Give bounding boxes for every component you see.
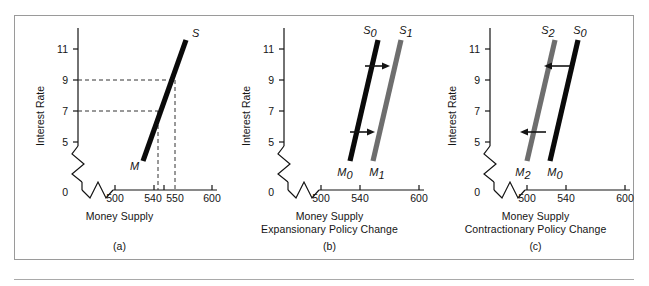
y-tick-label-11: 11 [469, 43, 480, 55]
y-tick-label-11: 11 [263, 43, 274, 55]
figure-root: 5 7 9 11 0 500 540 550 600 S M [0, 0, 649, 286]
origin-label: 0 [268, 186, 274, 198]
supply-curve-S1 [373, 40, 401, 161]
supply-curve-S0 [550, 40, 578, 161]
curve-label-S0: S0 [363, 24, 377, 39]
y-axis-title: Interest Rate [240, 86, 252, 146]
supply-curve-S0 [350, 40, 378, 161]
x-tick-label-540: 540 [144, 192, 162, 204]
y-tick-label-5: 5 [62, 136, 68, 148]
panel-c-plot: 5 7 9 11 0 500 540 600 S2 M2 S0 M0 [428, 18, 643, 208]
y-axis-break-zigzag [72, 146, 84, 182]
y-axis-title: Interest Rate [446, 86, 458, 146]
origin-label: 0 [62, 186, 68, 198]
panel-letter-b: (b) [222, 240, 437, 252]
x-axis-title: Money Supply [222, 210, 437, 222]
curve-label-M2: M2 [515, 166, 530, 181]
x-tick-label-500: 500 [106, 192, 124, 204]
x-axis-title: Money Supply [12, 210, 227, 222]
panel-letter-c: (c) [428, 240, 643, 252]
curve-label-S: S [192, 27, 200, 39]
y-tick-label-5: 5 [474, 136, 480, 148]
y-tick-label-9: 9 [62, 74, 68, 86]
curve-label-S0: S0 [573, 24, 587, 39]
y-tick-label-9: 9 [474, 74, 480, 86]
x-axis-title: Money Supply [428, 210, 643, 222]
x-axis-subtitle: Expansionary Policy Change [222, 223, 437, 235]
panel-a: 5 7 9 11 0 500 540 550 600 S M [12, 18, 227, 258]
curve-label-S1: S1 [399, 24, 412, 39]
y-axis-title: Interest Rate [34, 86, 46, 146]
x-axis-subtitle: Contractionary Policy Change [428, 223, 643, 235]
x-tick-label-600: 600 [203, 192, 221, 204]
panel-c: 5 7 9 11 0 500 540 600 S2 M2 S0 M0 [428, 18, 643, 258]
x-tick-label-600: 600 [410, 192, 428, 204]
y-tick-label-9: 9 [268, 74, 274, 86]
panel-b: 5 7 9 11 0 500 540 600 S0 M0 S1 M1 [222, 18, 437, 258]
panel-b-plot: 5 7 9 11 0 500 540 600 S0 M0 S1 M1 [222, 18, 437, 208]
curve-label-M1: M1 [369, 166, 384, 181]
y-tick-label-7: 7 [474, 105, 480, 117]
x-tick-label-500: 500 [518, 192, 536, 204]
x-tick-label-540: 540 [557, 192, 575, 204]
bottom-divider [14, 279, 634, 280]
x-tick-label-550: 550 [166, 192, 184, 204]
origin-label: 0 [474, 186, 480, 198]
panel-letter-a: (a) [12, 240, 227, 252]
supply-curve-S2 [527, 40, 555, 161]
y-axis-break-zigzag [484, 146, 496, 182]
y-tick-label-11: 11 [57, 43, 68, 55]
x-tick-label-540: 540 [351, 192, 369, 204]
y-tick-label-7: 7 [268, 105, 274, 117]
curve-label-M0: M0 [337, 166, 353, 181]
curve-label-M0: M0 [547, 166, 563, 181]
y-tick-label-7: 7 [62, 105, 68, 117]
supply-curve-S [143, 40, 186, 161]
x-tick-label-600: 600 [616, 192, 634, 204]
x-tick-label-500: 500 [312, 192, 330, 204]
y-tick-label-5: 5 [268, 136, 274, 148]
curve-label-S2: S2 [541, 24, 554, 39]
y-axis-break-zigzag [278, 146, 290, 182]
curve-label-M: M [130, 160, 140, 172]
